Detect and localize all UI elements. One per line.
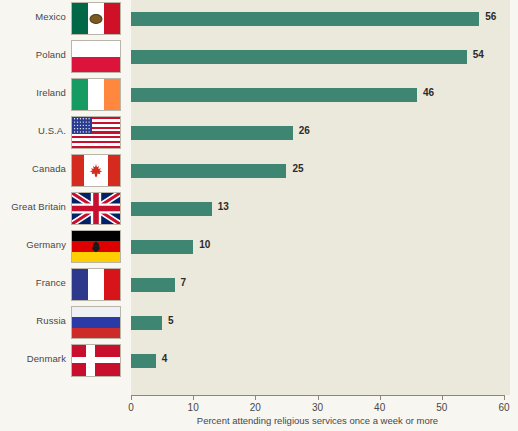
flag-mexico-icon (71, 2, 121, 35)
x-axis-tick-label: 10 (188, 402, 199, 413)
x-axis-tick-mark (380, 395, 381, 400)
flag-denmark-icon (71, 344, 121, 377)
flag-poland-icon (71, 40, 121, 73)
bar-row: U.S.A.26 (0, 114, 518, 152)
country-label: Russia (0, 315, 66, 326)
bar-value-label: 56 (485, 11, 496, 22)
bar-value-label: 46 (423, 87, 434, 98)
bar (131, 50, 467, 64)
x-axis-tick-label: 40 (374, 402, 385, 413)
bar-row: Canada 25 (0, 152, 518, 190)
bar (131, 278, 175, 292)
bar-value-label: 4 (162, 353, 168, 364)
country-label: U.S.A. (0, 125, 66, 136)
bar-row: Poland54 (0, 38, 518, 76)
country-label: Canada (0, 163, 66, 174)
flag-ireland-icon (71, 78, 121, 111)
x-axis-tick-mark (318, 395, 319, 400)
bar-row: Great Britain 13 (0, 190, 518, 228)
flag-great-britain-icon (71, 192, 121, 225)
bar-row: Mexico56 (0, 0, 518, 38)
flag-france-icon (71, 268, 121, 301)
country-label: France (0, 277, 66, 288)
bar (131, 240, 193, 254)
x-axis-tick-mark (442, 395, 443, 400)
bar (131, 126, 293, 140)
country-label: Great Britain (0, 201, 66, 212)
x-axis-tick-mark (504, 395, 505, 400)
bar (131, 202, 212, 216)
bar (131, 88, 417, 102)
flag-germany-icon (71, 230, 121, 263)
bar (131, 164, 286, 178)
bar-row: Germany 10 (0, 228, 518, 266)
country-label: Germany (0, 239, 66, 250)
x-axis-tick-mark (131, 395, 132, 400)
country-label: Denmark (0, 353, 66, 364)
flag-canada-icon (71, 154, 121, 187)
bar-value-label: 26 (299, 125, 310, 136)
bar-row: Ireland46 (0, 76, 518, 114)
x-axis-tick-label: 30 (312, 402, 323, 413)
bar-value-label: 25 (292, 163, 303, 174)
bar-row: France7 (0, 266, 518, 304)
x-axis-tick-label: 50 (436, 402, 447, 413)
bar-value-label: 7 (181, 277, 187, 288)
bar (131, 316, 162, 330)
x-axis-tick-mark (255, 395, 256, 400)
flag-usa-icon (71, 116, 121, 149)
country-label: Poland (0, 49, 66, 60)
bar-value-label: 54 (473, 49, 484, 60)
x-axis-tick-label: 20 (250, 402, 261, 413)
flag-russia-icon (71, 306, 121, 339)
country-label: Ireland (0, 87, 66, 98)
bar (131, 354, 156, 368)
bar-row: Russia5 (0, 304, 518, 342)
x-axis-tick-mark (193, 395, 194, 400)
country-label: Mexico (0, 11, 66, 22)
x-axis-tick-label: 60 (498, 402, 509, 413)
bar-value-label: 5 (168, 315, 174, 326)
x-axis-tick-label: 0 (128, 402, 134, 413)
bar-value-label: 10 (199, 239, 210, 250)
x-axis-title: Percent attending religious services onc… (131, 415, 504, 426)
bar (131, 12, 479, 26)
bar-row: Denmark4 (0, 342, 518, 380)
bar-value-label: 13 (218, 201, 229, 212)
chart-figure: Mexico56Poland54Ireland46U.S.A.26Canada … (0, 0, 518, 431)
